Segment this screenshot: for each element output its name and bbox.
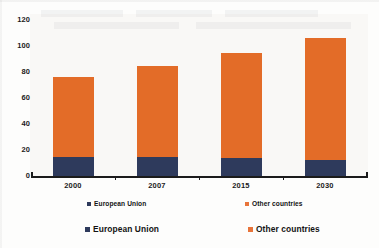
legend-item-european-union[interactable]: European Union <box>87 200 146 207</box>
bar-2007[interactable] <box>137 66 178 176</box>
bar-segment-other-countries[interactable] <box>53 77 94 158</box>
legend-swatch-other-countries <box>245 202 249 206</box>
y-axis-tick-label: 0 <box>4 172 30 180</box>
legend-item-other-countries[interactable]: Other countries <box>245 200 303 207</box>
legend-label-other-countries: Other countries <box>256 224 320 234</box>
legend-item-other-countries[interactable]: Other countries <box>248 224 320 234</box>
y-axis-tick-label: 40 <box>4 120 30 128</box>
x-axis-tick <box>283 176 284 180</box>
chart-legend-secondary: European Union Other countries <box>0 224 379 236</box>
legend-label-european-union: European Union <box>93 224 159 234</box>
x-axis-tick <box>115 176 116 180</box>
x-axis-left-cap <box>31 172 33 176</box>
scanned-page: 120 100 80 60 40 20 0 <box>0 0 379 248</box>
y-axis-tick-label: 60 <box>4 94 30 102</box>
legend-item-european-union[interactable]: European Union <box>85 224 159 234</box>
y-axis-tick-label: 120 <box>4 16 30 24</box>
legend-swatch-european-union <box>85 227 90 232</box>
x-axis-label-2007: 2007 <box>127 181 187 190</box>
legend-label-european-union: European Union <box>94 200 146 207</box>
bar-2000[interactable] <box>53 77 94 177</box>
x-axis-right-cap <box>366 172 368 176</box>
y-axis-tick-label: 20 <box>4 146 30 154</box>
stacked-bar-chart: 120 100 80 60 40 20 0 <box>0 0 379 248</box>
chart-legend-primary: European Union Other countries <box>0 200 379 212</box>
bar-2030[interactable] <box>305 38 346 176</box>
x-axis-label-2000: 2000 <box>43 181 103 190</box>
legend-label-other-countries: Other countries <box>252 200 303 207</box>
bar-segment-european-union[interactable] <box>53 157 94 176</box>
legend-swatch-european-union <box>87 202 91 206</box>
bar-segment-european-union[interactable] <box>305 160 346 176</box>
bar-segment-european-union[interactable] <box>137 157 178 176</box>
y-axis-tick-label: 80 <box>4 68 30 76</box>
bar-segment-other-countries[interactable] <box>305 38 346 160</box>
x-axis-tick <box>199 176 200 180</box>
y-axis-tick-label: 100 <box>4 42 30 50</box>
x-axis-label-2015: 2015 <box>211 181 271 190</box>
x-axis-label-2030: 2030 <box>295 181 355 190</box>
bar-segment-european-union[interactable] <box>221 158 262 176</box>
bar-2015[interactable] <box>221 53 262 176</box>
bar-segment-other-countries[interactable] <box>221 53 262 158</box>
legend-swatch-other-countries <box>248 227 253 232</box>
bar-segment-other-countries[interactable] <box>137 66 178 157</box>
